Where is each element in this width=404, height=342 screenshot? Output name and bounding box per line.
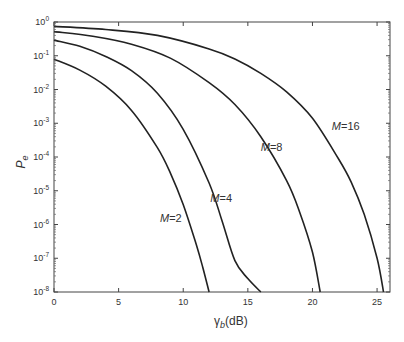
y-tick-label: 10-4 (33, 150, 49, 162)
x-tick-label: 25 (372, 297, 382, 307)
y-tick-label: 10-1 (33, 49, 49, 61)
curve-m-16 (54, 26, 384, 292)
x-tick-label: 20 (307, 297, 317, 307)
y-tick-label: 100 (35, 15, 49, 27)
curve-label: M=8 (261, 141, 283, 153)
y-tick-label: 10-7 (33, 251, 49, 263)
y-tick-label: 10-8 (33, 285, 49, 297)
x-tick-label: 10 (178, 297, 188, 307)
x-axis-label: γb(dB) (214, 314, 248, 330)
curve-m-8 (54, 32, 320, 292)
y-tick-label: 10-3 (33, 116, 49, 128)
y-tick-label: 10-6 (33, 218, 49, 230)
curve-label: M=2 (160, 212, 182, 224)
y-axis-subscript: e (20, 155, 30, 160)
plot-frame (54, 22, 390, 292)
x-tick-label: 15 (243, 297, 253, 307)
y-tick-label: 10-5 (33, 184, 49, 196)
svg-text:Pe: Pe (14, 155, 30, 168)
y-axis-symbol: P (14, 161, 28, 169)
curve-label: M=4 (210, 192, 232, 204)
y-tick-label: 10-2 (33, 83, 49, 95)
x-tick-label: 5 (116, 297, 121, 307)
curves (54, 26, 384, 292)
x-tick-label: 0 (51, 297, 56, 307)
y-axis-label: Pe (14, 155, 30, 168)
ber-chart: 051015202510010-110-210-310-410-510-610-… (0, 0, 404, 342)
axes-ticks: 051015202510010-110-210-310-410-510-610-… (33, 15, 390, 307)
svg-text:γb(dB): γb(dB) (214, 314, 248, 330)
curve-m-2 (54, 59, 209, 292)
curve-label: M=16 (332, 120, 360, 132)
plot-area (54, 22, 390, 292)
curve-m-4 (54, 40, 261, 292)
x-axis-unit: (dB) (225, 314, 248, 328)
